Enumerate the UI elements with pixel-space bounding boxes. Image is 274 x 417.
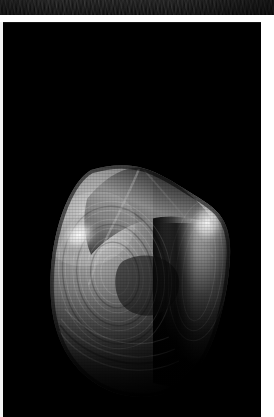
cropped-image-strip — [0, 0, 274, 15]
object-body — [35, 158, 243, 413]
rendered-object — [3, 23, 261, 417]
isosurface-svg — [3, 23, 261, 417]
page-gutter — [0, 15, 274, 22]
screenshot-root — [0, 0, 274, 417]
right-page-margin — [261, 22, 274, 417]
strip-shading — [0, 0, 274, 15]
render-viewport[interactable] — [3, 22, 261, 417]
